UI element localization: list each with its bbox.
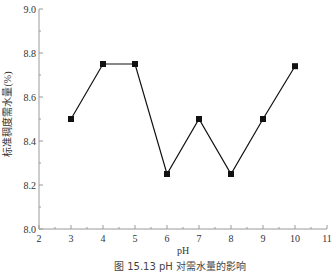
y-tick-label: 8.2 [24, 180, 37, 191]
series-layer [68, 61, 298, 177]
line-chart: 234567891011 8.08.28.48.68.89.0 pH 标准稠度需… [0, 0, 333, 272]
axes [39, 9, 327, 229]
data-point-marker [196, 116, 202, 122]
x-tick-label: 2 [37, 233, 42, 244]
y-tick-label: 8.4 [24, 136, 37, 147]
x-tick-label: 6 [165, 233, 170, 244]
x-ticks: 234567891011 [37, 225, 332, 244]
data-point-marker [292, 63, 298, 69]
x-tick-label: 11 [322, 233, 332, 244]
x-tick-label: 10 [290, 233, 300, 244]
x-tick-label: 8 [229, 233, 234, 244]
x-tick-label: 5 [133, 233, 138, 244]
data-point-marker [228, 171, 234, 177]
x-tick-label: 7 [197, 233, 202, 244]
data-point-marker [164, 171, 170, 177]
y-ticks: 8.08.28.48.68.89.0 [24, 4, 44, 235]
x-tick-label: 4 [101, 233, 106, 244]
y-tick-label: 9.0 [24, 4, 37, 15]
data-point-marker [132, 61, 138, 67]
data-point-marker [260, 116, 266, 122]
data-point-marker [68, 116, 74, 122]
y-tick-label: 8.0 [24, 224, 37, 235]
figure-caption: 图 15.13 pH 对需水量的影响 [114, 260, 246, 272]
x-tick-label: 9 [261, 233, 266, 244]
x-tick-label: 3 [69, 233, 74, 244]
data-point-marker [100, 61, 106, 67]
y-tick-label: 8.8 [24, 48, 37, 59]
y-axis-label: 标准稠度需水量(%) [1, 72, 14, 157]
x-axis-label: pH [177, 245, 189, 256]
y-tick-label: 8.6 [24, 92, 37, 103]
